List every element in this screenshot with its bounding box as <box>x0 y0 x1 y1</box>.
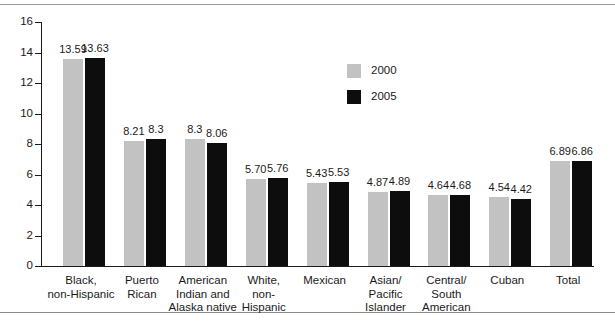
bar-value-label: 8.06 <box>200 128 234 139</box>
y-axis-tick-label: 0 <box>27 260 33 272</box>
bar-2005 <box>390 191 410 266</box>
bar-group: 13.5913.63 <box>51 22 107 266</box>
bar-2000 <box>246 179 266 266</box>
chart-legend: 2000 2005 <box>347 62 427 114</box>
legend-item-2005: 2005 <box>347 88 427 106</box>
bar-group: 6.896.86 <box>538 22 594 266</box>
bar-2005 <box>207 143 227 266</box>
bar-2000 <box>307 183 327 266</box>
y-axis-tick <box>35 114 41 115</box>
bar-group: 8.218.3 <box>112 22 168 266</box>
bar-value-label: 5.76 <box>261 163 295 174</box>
category-label-line: South <box>409 288 483 302</box>
y-axis-tick-label: 10 <box>20 108 33 120</box>
bar-group: 5.705.76 <box>234 22 290 266</box>
bar-2000 <box>489 197 509 266</box>
bar-group: 4.644.68 <box>416 22 472 266</box>
bar-2000 <box>185 139 205 266</box>
bar-2005 <box>146 139 166 266</box>
legend-item-2000: 2000 <box>347 62 427 80</box>
bar-value-label: 4.42 <box>504 184 538 195</box>
legend-swatch-icon-2000 <box>347 64 361 78</box>
bar-2005 <box>450 195 470 266</box>
bar-2005 <box>329 182 349 266</box>
y-axis-tick-label: 14 <box>20 47 33 59</box>
y-axis-tick-label: 8 <box>27 138 33 150</box>
y-axis-tick <box>35 236 41 237</box>
top-divider-rule <box>0 4 615 5</box>
bar-value-label: 13.63 <box>78 43 112 54</box>
legend-swatch-icon-2005 <box>347 90 361 104</box>
x-axis-line <box>41 266 594 267</box>
y-axis-tick <box>35 53 41 54</box>
y-axis-tick <box>35 83 41 84</box>
legend-label-2005: 2005 <box>371 91 397 103</box>
bar-value-label: 5.53 <box>322 167 356 178</box>
y-axis-tick <box>35 22 41 23</box>
bar-2005 <box>572 161 592 266</box>
bar-value-label: 4.68 <box>443 180 477 191</box>
bar-2000 <box>368 192 388 266</box>
category-label-line: Total <box>531 274 605 288</box>
bar-group: 8.38.06 <box>173 22 229 266</box>
y-axis-tick-label: 16 <box>20 16 33 28</box>
y-axis-tick <box>35 205 41 206</box>
bar-2005 <box>268 178 288 266</box>
bar-2000 <box>550 161 570 266</box>
bar-value-label: 8.3 <box>139 124 173 135</box>
bar-2000 <box>63 59 83 266</box>
y-axis-tick-labels: 0246810121416 <box>3 22 33 267</box>
bar-chart-figure: 0246810121416 13.5913.638.218.38.38.065.… <box>0 0 615 322</box>
y-axis-tick-label: 6 <box>27 169 33 181</box>
y-axis-tick-label: 2 <box>27 230 33 242</box>
category-label-line: non- <box>227 288 301 302</box>
category-label-line: Hispanic <box>227 301 301 315</box>
bar-2000 <box>124 141 144 266</box>
y-axis-line <box>41 22 42 267</box>
category-label: Total <box>531 274 605 288</box>
bar-group: 5.435.53 <box>295 22 351 266</box>
bar-2000 <box>428 195 448 266</box>
category-label-line: American <box>409 301 483 315</box>
bar-2005 <box>511 199 531 266</box>
y-axis-tick-label: 12 <box>20 77 33 89</box>
y-axis-tick <box>35 266 41 267</box>
y-axis-tick <box>35 144 41 145</box>
y-axis-tick <box>35 175 41 176</box>
plot-area: 0246810121416 13.5913.638.218.38.38.065.… <box>41 22 594 267</box>
bar-value-label: 4.89 <box>383 176 417 187</box>
bar-2005 <box>85 58 105 266</box>
bar-group: 4.874.89 <box>356 22 412 266</box>
bottom-divider-rule <box>0 312 615 313</box>
bar-value-label: 6.86 <box>565 146 599 157</box>
y-axis-tick-label: 4 <box>27 199 33 211</box>
legend-label-2000: 2000 <box>371 65 397 77</box>
bar-group: 4.544.42 <box>477 22 533 266</box>
